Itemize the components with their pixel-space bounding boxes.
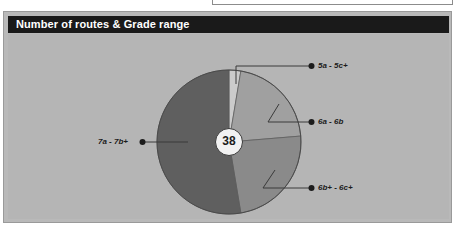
page-title: Number of routes & Grade range	[16, 18, 190, 31]
pie-label-6a-6b: 6a - 6b	[318, 117, 343, 127]
top-cutoff-widget	[212, 0, 453, 5]
pie-center-total: 38	[214, 135, 244, 148]
bullet-6a-6b	[309, 119, 315, 125]
bullet-7a-7bp	[140, 139, 146, 145]
pie-chart	[8, 34, 449, 219]
pie-slice-6a-6b	[229, 71, 301, 142]
chart-plot-area: 5a - 5c+ 6a - 6b 6b+ - 6c+ 7a - 7b+ 38	[8, 34, 449, 219]
bullet-5a-5c	[309, 63, 315, 69]
chart-title-bar: Number of routes & Grade range	[8, 16, 449, 33]
chart-card: Number of routes & Grade range	[3, 11, 452, 223]
bullet-6bp-6cp	[309, 185, 315, 191]
pie-label-7a-7bp: 7a - 7b+	[98, 137, 128, 147]
pie-label-5a-5c: 5a - 5c+	[318, 61, 348, 71]
pie-label-6bp-6cp: 6b+ - 6c+	[318, 183, 353, 193]
